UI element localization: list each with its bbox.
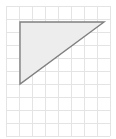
figure-canvas [0, 0, 116, 139]
geometry-figure [0, 0, 116, 139]
